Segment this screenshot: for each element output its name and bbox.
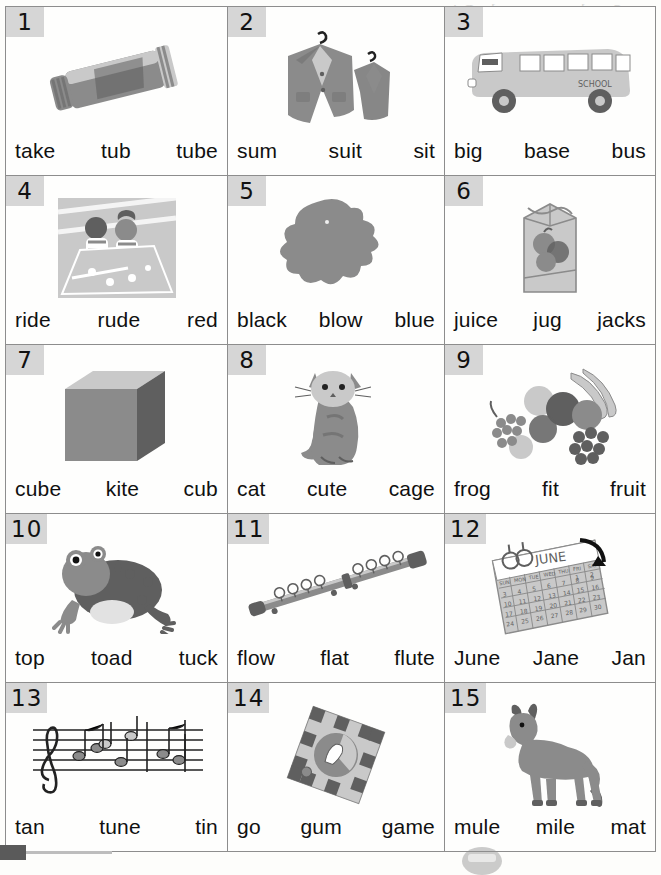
worksheet-item-13[interactable]: 13 tantunetin: [5, 683, 228, 852]
word-choices: sumsuitsit: [237, 136, 435, 166]
svg-text:27: 27: [550, 611, 559, 619]
word-choice[interactable]: sum: [237, 139, 277, 163]
svg-text:24: 24: [506, 620, 515, 628]
word-choice[interactable]: kite: [106, 477, 139, 501]
word-choices: flowflatflute: [237, 643, 435, 673]
svg-text:26: 26: [535, 614, 544, 622]
word-choice[interactable]: cub: [184, 477, 218, 501]
word-choice[interactable]: black: [237, 308, 287, 332]
svg-text:28: 28: [565, 608, 574, 616]
word-choice[interactable]: top: [15, 646, 45, 670]
worksheet-grid: 1 taketubtube2: [5, 6, 656, 851]
worksheet-item-15[interactable]: 15 mulemilemat: [445, 683, 656, 852]
word-choice[interactable]: mule: [454, 815, 500, 839]
page-seal-watermark: [462, 847, 502, 875]
svg-text:23: 23: [592, 593, 601, 601]
word-choice[interactable]: cage: [389, 477, 435, 501]
word-choice[interactable]: rude: [98, 308, 141, 332]
word-choice[interactable]: cat: [237, 477, 266, 501]
worksheet-item-9[interactable]: 9 frogfitfruit: [445, 345, 656, 514]
word-choice[interactable]: blue: [394, 308, 435, 332]
word-choice[interactable]: Jane: [533, 646, 579, 670]
word-choice[interactable]: game: [382, 815, 435, 839]
svg-text:30: 30: [593, 603, 602, 611]
word-choice[interactable]: gum: [300, 815, 341, 839]
word-choice[interactable]: blow: [319, 308, 363, 332]
word-choice[interactable]: fit: [542, 477, 559, 501]
svg-text:11: 11: [518, 597, 527, 605]
word-choice[interactable]: bus: [612, 139, 646, 163]
svg-text:12: 12: [533, 594, 542, 602]
worksheet-item-1[interactable]: 1 taketubtube: [5, 7, 228, 176]
word-choice[interactable]: frog: [454, 477, 491, 501]
cat-icon: [228, 365, 444, 469]
word-choices: riderudered: [15, 305, 218, 335]
word-choice[interactable]: tube: [176, 139, 218, 163]
board-game-icon: [228, 703, 444, 807]
word-choice[interactable]: tuck: [179, 646, 218, 670]
svg-text:17: 17: [505, 610, 514, 618]
word-choice[interactable]: jug: [533, 308, 562, 332]
word-choice[interactable]: tune: [99, 815, 141, 839]
word-choice[interactable]: Jan: [612, 646, 646, 670]
svg-text:19: 19: [534, 604, 543, 612]
word-choice[interactable]: tub: [101, 139, 131, 163]
worksheet-item-7[interactable]: 7 cubekitecub: [5, 345, 228, 514]
word-choices: catcutecage: [237, 474, 435, 504]
word-choice[interactable]: toad: [91, 646, 133, 670]
word-choices: juicejugjacks: [454, 305, 646, 335]
svg-text:13: 13: [548, 591, 557, 599]
worksheet-item-2[interactable]: 2 sumsuitsit: [228, 7, 445, 176]
word-choice[interactable]: take: [15, 139, 56, 163]
june-calendar-icon: JUNE SUNMONTUE WEDTHUFRISAT 12 345 6789 …: [445, 534, 655, 638]
word-choice[interactable]: go: [237, 815, 261, 839]
word-choice[interactable]: flow: [237, 646, 275, 670]
svg-text:25: 25: [521, 617, 530, 625]
word-choices: cubekitecub: [15, 474, 218, 504]
blue-blob-icon: [228, 196, 444, 300]
worksheet-item-5[interactable]: 5 blackblowblue: [228, 176, 445, 345]
word-choice[interactable]: cube: [15, 477, 61, 501]
svg-text:18: 18: [519, 607, 528, 615]
word-choices: tantunetin: [15, 812, 218, 842]
toothpaste-tube-icon: [6, 27, 227, 131]
svg-text:22: 22: [578, 596, 587, 604]
word-choice[interactable]: June: [454, 646, 500, 670]
worksheet-item-11[interactable]: 11 flowflatflute: [228, 514, 445, 683]
worksheet-item-14[interactable]: 14 gogumgame: [228, 683, 445, 852]
word-choice[interactable]: mile: [536, 815, 575, 839]
word-choice[interactable]: mat: [610, 815, 646, 839]
suit-on-hanger-icon: [228, 27, 444, 131]
word-choice[interactable]: base: [524, 139, 570, 163]
word-choice[interactable]: big: [454, 139, 483, 163]
word-choice[interactable]: flute: [394, 646, 435, 670]
svg-text:29: 29: [579, 606, 588, 614]
word-choices: frogfitfruit: [454, 474, 646, 504]
word-choice[interactable]: tan: [15, 815, 45, 839]
worksheet-item-12[interactable]: 12 JUNE SUNMONTUE WEDTHUFRISAT 12: [445, 514, 656, 683]
word-choice[interactable]: sit: [413, 139, 435, 163]
worksheet-item-8[interactable]: 8 catcutecage: [228, 345, 445, 514]
worksheet-item-10[interactable]: 10 toptoadtuck: [5, 514, 228, 683]
mule-icon: [445, 703, 655, 807]
word-choice[interactable]: red: [187, 308, 218, 332]
word-choice[interactable]: ride: [15, 308, 51, 332]
worksheet-item-4[interactable]: 4 riderudered: [5, 176, 228, 345]
word-choices: mulemilemat: [454, 812, 646, 842]
word-choices: blackblowblue: [237, 305, 435, 335]
svg-text:15: 15: [576, 586, 585, 594]
svg-text:SCHOOL: SCHOOL: [578, 80, 612, 89]
word-choices: taketubtube: [15, 136, 218, 166]
word-choice[interactable]: jacks: [597, 308, 646, 332]
word-choice[interactable]: suit: [329, 139, 362, 163]
worksheet-item-3[interactable]: 3 SCHOOL bigbasebus: [445, 7, 656, 176]
worksheet-item-6[interactable]: 6 juicejugjacks: [445, 176, 656, 345]
word-choice[interactable]: flat: [320, 646, 349, 670]
word-choices: gogumgame: [237, 812, 435, 842]
word-choice[interactable]: cute: [307, 477, 348, 501]
school-bus-icon: SCHOOL: [445, 27, 655, 131]
word-choice[interactable]: fruit: [610, 477, 646, 501]
word-choice[interactable]: tin: [195, 815, 218, 839]
word-choice[interactable]: juice: [454, 308, 498, 332]
word-choices: bigbasebus: [454, 136, 646, 166]
